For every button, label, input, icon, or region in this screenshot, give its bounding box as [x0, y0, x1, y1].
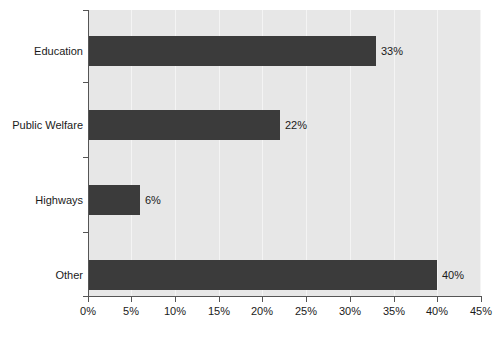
x-tick-label-45: 45%	[470, 305, 492, 317]
y-axis-tick	[83, 157, 88, 158]
x-axis-tick	[350, 297, 351, 302]
value-label-other: 40%	[442, 269, 464, 281]
x-tick-label-10: 10%	[164, 305, 186, 317]
x-tick-label-40: 40%	[426, 305, 448, 317]
x-tick-label-15: 15%	[208, 305, 230, 317]
y-axis-tick	[83, 10, 88, 11]
x-axis-tick	[394, 297, 395, 302]
x-axis-line	[88, 296, 482, 297]
y-axis-tick	[83, 232, 88, 233]
x-axis-tick	[175, 297, 176, 302]
x-axis-tick	[437, 297, 438, 302]
bar-other	[88, 260, 437, 290]
category-label-public-welfare: Public Welfare	[0, 119, 83, 131]
bar-highways	[88, 185, 140, 215]
bar-public-welfare	[88, 110, 280, 140]
x-axis-tick	[131, 297, 132, 302]
value-label-highways: 6%	[145, 194, 161, 206]
bar-chart: Education Public Welfare Highways Other …	[0, 0, 498, 341]
x-tick-label-5: 5%	[123, 305, 139, 317]
y-axis-tick	[83, 82, 88, 83]
value-label-public-welfare: 22%	[285, 119, 307, 131]
x-tick-label-35: 35%	[383, 305, 405, 317]
gridline-40	[437, 10, 438, 296]
x-tick-label-25: 25%	[295, 305, 317, 317]
x-tick-label-0: 0%	[80, 305, 96, 317]
x-axis-tick	[306, 297, 307, 302]
x-tick-label-20: 20%	[251, 305, 273, 317]
x-axis-tick	[88, 297, 89, 302]
gridline-45	[480, 10, 481, 296]
category-label-other: Other	[0, 269, 83, 281]
plot-area	[88, 10, 481, 296]
x-axis-tick	[219, 297, 220, 302]
value-label-education: 33%	[381, 45, 403, 57]
bar-education	[88, 36, 376, 66]
x-tick-label-30: 30%	[339, 305, 361, 317]
y-axis-line	[88, 10, 89, 297]
x-axis-tick	[481, 297, 482, 302]
category-label-education: Education	[0, 45, 83, 57]
x-axis-tick	[262, 297, 263, 302]
category-label-highways: Highways	[0, 194, 83, 206]
